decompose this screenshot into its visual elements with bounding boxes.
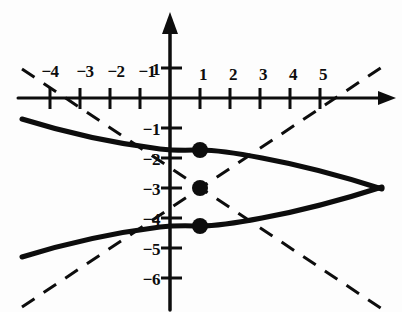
center-point (192, 180, 208, 196)
upper-vertex-point (192, 142, 208, 158)
y-tick-label-minus-6: −6 (143, 271, 160, 288)
x-tick-label-5: 5 (319, 66, 327, 83)
x-tick-label-minus-3: −3 (76, 63, 93, 80)
y-tick-label-minus-1: −1 (143, 121, 160, 138)
y-tick-label-minus-4: −4 (143, 211, 160, 228)
hyperbola-graph-figure: −4 −3 −2 −1 1 2 3 4 5 1 −1 −2 −3 −4 −5 −… (0, 0, 402, 312)
marked-points (192, 142, 208, 234)
y-tick-label-minus-5: −5 (143, 241, 160, 258)
x-tick-label-2: 2 (229, 66, 237, 83)
x-axis-right-arrow-icon (378, 91, 396, 105)
y-tick-label-minus-3: −3 (143, 181, 160, 198)
y-tick-label-minus-2: −2 (143, 151, 160, 168)
lower-vertex-point (192, 218, 208, 234)
x-tick-label-minus-4: −4 (41, 63, 58, 80)
y-tick-label-1: 1 (152, 61, 160, 78)
y-axis-up-arrow-icon (162, 12, 178, 34)
x-tick-label-4: 4 (289, 66, 297, 83)
coordinate-plot-svg (0, 0, 402, 312)
x-tick-label-1: 1 (199, 66, 207, 83)
y-axis (161, 12, 182, 310)
x-tick-label-minus-2: −2 (107, 63, 124, 80)
x-tick-label-3: 3 (259, 66, 267, 83)
